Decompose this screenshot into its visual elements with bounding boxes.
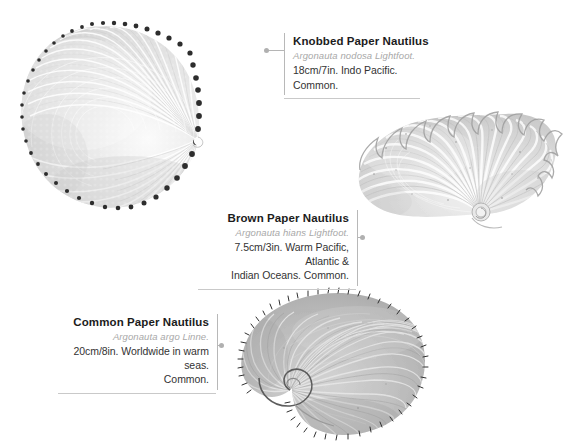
leader-dot-knobbed-paper-nautilus xyxy=(264,48,269,53)
description-line2-knobbed-paper-nautilus: Common. xyxy=(293,79,414,93)
leader-line-knobbed-paper-nautilus xyxy=(268,50,285,51)
label-knobbed-paper-nautilus: Knobbed Paper Nautilus Argonauta nodosa … xyxy=(284,33,422,99)
label-rule-brown-paper-nautilus xyxy=(198,289,356,290)
label-rule-common-paper-nautilus xyxy=(58,393,216,394)
species-name-knobbed-paper-nautilus: Argonauta nodosa Lightfoot. xyxy=(293,50,414,63)
shell-plate: Knobbed Paper Nautilus Argonauta nodosa … xyxy=(0,0,574,446)
description-line1-brown-paper-nautilus: 7.5cm/3in. Warm Pacific, Atlantic & xyxy=(206,241,349,269)
leader-dot-common-paper-nautilus xyxy=(219,343,224,348)
species-name-common-paper-nautilus: Argonauta argo Linne. xyxy=(66,331,209,344)
common-name-knobbed-paper-nautilus: Knobbed Paper Nautilus xyxy=(293,34,414,49)
description-line2-common-paper-nautilus: Common. xyxy=(66,373,209,387)
shell-image-knobbed-paper-nautilus xyxy=(8,8,276,220)
description-line1-knobbed-paper-nautilus: 18cm/7in. Indo Pacific. xyxy=(293,64,414,78)
description-line2-brown-paper-nautilus: Indian Oceans. Common. xyxy=(206,269,349,283)
label-common-paper-nautilus: Common Paper Nautilus Argonauta argo Lin… xyxy=(58,314,218,394)
description-line1-common-paper-nautilus: 20cm/8in. Worldwide in warm seas. xyxy=(66,345,209,373)
leader-dot-brown-paper-nautilus xyxy=(360,235,365,240)
label-rule-knobbed-paper-nautilus xyxy=(284,98,420,99)
shell-image-common-paper-nautilus xyxy=(208,288,432,440)
common-name-common-paper-nautilus: Common Paper Nautilus xyxy=(66,315,209,330)
shell-image-brown-paper-nautilus xyxy=(352,108,570,240)
common-name-brown-paper-nautilus: Brown Paper Nautilus xyxy=(206,211,349,226)
species-name-brown-paper-nautilus: Argonauta hians Lightfoot. xyxy=(206,227,349,240)
label-brown-paper-nautilus: Brown Paper Nautilus Argonauta hians Lig… xyxy=(198,210,358,290)
